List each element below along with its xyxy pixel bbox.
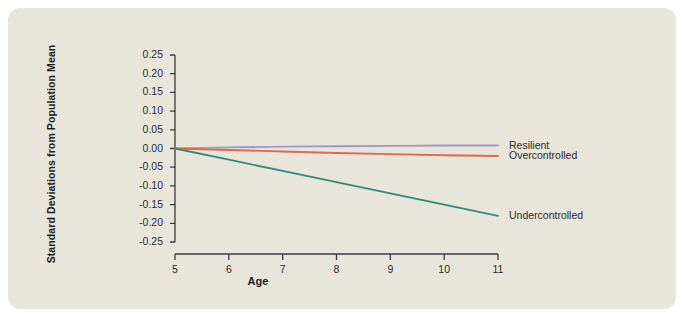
x-tick-label: 7	[270, 263, 296, 275]
y-tick-label: -0.10	[117, 179, 163, 191]
y-tick-label: -0.05	[117, 160, 163, 172]
x-tick-label: 6	[216, 263, 242, 275]
line-chart: Standard Deviations from Population Mean…	[8, 8, 676, 309]
y-tick-label: 0.10	[117, 104, 163, 116]
x-tick-label: 11	[485, 263, 511, 275]
figure-panel: Standard Deviations from Population Mean…	[8, 8, 676, 309]
x-tick-label: 10	[431, 263, 457, 275]
series-label-overcontrolled: Overcontrolled	[509, 149, 577, 161]
y-tick-label: 0.15	[117, 85, 163, 97]
y-tick-label: 0.25	[117, 48, 163, 60]
series-line-undercontrolled	[175, 149, 498, 216]
x-tick-label: 8	[324, 263, 350, 275]
series-line-overcontrolled	[175, 149, 498, 156]
series-line-resilient	[175, 146, 498, 149]
y-tick-label: -0.20	[117, 216, 163, 228]
x-tick-label: 5	[162, 263, 188, 275]
y-tick-label: -0.15	[117, 198, 163, 210]
y-tick-label: 0.05	[117, 123, 163, 135]
series-label-undercontrolled: Undercontrolled	[509, 209, 583, 221]
y-tick-label: 0.00	[117, 142, 163, 154]
y-tick-label: -0.25	[117, 235, 163, 247]
x-tick-label: 9	[377, 263, 403, 275]
y-tick-label: 0.20	[117, 67, 163, 79]
